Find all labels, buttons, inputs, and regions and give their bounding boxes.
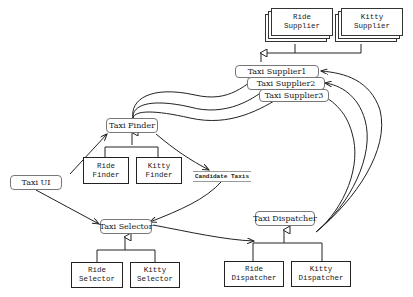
ride-dispatcher[interactable]: Ride Dispatcher: [224, 261, 284, 287]
kitty-supplier-stack[interactable]: Kitty Supplier: [335, 8, 407, 42]
ride-finder[interactable]: Ride Finder: [83, 157, 129, 184]
kitty-finder[interactable]: Kitty Finder: [136, 157, 182, 184]
taxi-finder[interactable]: Taxi Finder: [106, 118, 158, 133]
ride-selector[interactable]: Ride Selector: [71, 262, 123, 288]
kitty-supplier-label: Kitty Supplier: [341, 8, 403, 36]
taxi-supplier-3[interactable]: Taxi Supplier3: [259, 89, 329, 102]
candidate-taxis-store[interactable]: Candidate Taxis: [193, 171, 251, 182]
kitty-dispatcher[interactable]: Kitty Dispatcher: [291, 261, 351, 287]
ride-supplier-label: Ride Supplier: [271, 8, 333, 36]
ride-supplier-stack[interactable]: Ride Supplier: [265, 8, 335, 42]
taxi-dispatcher[interactable]: Taxi Dispatcher: [255, 211, 315, 226]
taxi-ui[interactable]: Taxi UI: [10, 175, 62, 190]
connector-lines: [0, 0, 413, 297]
taxi-selector[interactable]: Taxi Selector: [100, 219, 152, 234]
kitty-selector[interactable]: Kitty Selector: [130, 262, 180, 288]
